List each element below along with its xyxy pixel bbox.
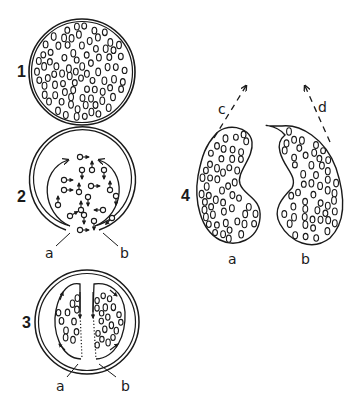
cell (69, 35, 74, 42)
cell (102, 29, 107, 36)
cell (223, 219, 228, 226)
cell (315, 207, 320, 214)
cell (230, 146, 235, 153)
motile-cell (91, 218, 96, 223)
cell (230, 205, 235, 212)
cell (103, 45, 108, 53)
cell (239, 231, 244, 238)
cell (244, 138, 249, 145)
cell (246, 204, 251, 211)
flow-arrow-bottom-left (59, 344, 65, 350)
cell (318, 216, 323, 223)
stage-1-number: 1 (17, 63, 26, 80)
cell (211, 211, 216, 218)
cell (242, 220, 247, 227)
cell (89, 60, 94, 66)
cell (95, 342, 99, 348)
cell (200, 174, 205, 181)
cell (253, 210, 258, 217)
cell (103, 326, 107, 333)
cell (221, 231, 226, 238)
cell (107, 296, 111, 302)
cell (87, 38, 92, 45)
cell (120, 79, 125, 86)
cell (90, 78, 95, 84)
cell (292, 213, 297, 220)
motile-cell (89, 167, 94, 172)
cell (317, 155, 322, 161)
cell (117, 41, 122, 48)
cell (48, 59, 53, 65)
cell (51, 33, 56, 41)
cell (215, 164, 220, 171)
cell (96, 34, 101, 41)
cell (63, 89, 68, 96)
cell (111, 335, 115, 341)
cell (64, 327, 69, 334)
cell (208, 161, 213, 167)
cell (334, 179, 339, 186)
cell (74, 329, 79, 335)
cell (118, 53, 123, 59)
cell (332, 190, 337, 197)
cell (321, 148, 326, 154)
motile-cell (61, 187, 66, 192)
motile-cell (107, 187, 112, 192)
motile-cell (113, 193, 118, 198)
cell (56, 42, 61, 49)
cell (318, 182, 323, 189)
motile-cell (77, 227, 82, 232)
cell (311, 191, 316, 198)
stage-2: 2 a b (17, 127, 136, 261)
cell (85, 86, 90, 92)
cell (75, 106, 80, 113)
cell (97, 54, 102, 61)
cell (303, 198, 308, 204)
motile-cell (55, 202, 60, 207)
cell (85, 70, 90, 77)
inner-membrane (32, 22, 133, 123)
cell (303, 233, 308, 239)
cell (235, 218, 240, 225)
motile-cell (78, 207, 83, 212)
cell (84, 52, 89, 58)
cell (293, 232, 298, 239)
cell (326, 217, 331, 224)
cell (239, 149, 244, 156)
cell (82, 23, 87, 29)
cell (56, 107, 61, 114)
cell (72, 80, 77, 86)
cell (75, 295, 80, 302)
cell (96, 111, 101, 117)
cleavage-dotted-left (80, 311, 82, 359)
label-b: b (120, 245, 129, 261)
cell (237, 195, 242, 201)
cell (75, 23, 80, 30)
motile-cell (81, 212, 86, 217)
cell (61, 81, 66, 87)
cell (289, 192, 294, 199)
stage-3: 3 a b (22, 270, 139, 394)
cell (100, 97, 105, 104)
cell (234, 134, 239, 140)
cell (41, 52, 46, 58)
motile-cell (109, 215, 114, 220)
cell (300, 137, 305, 144)
cell (112, 75, 117, 82)
motile-cell (85, 194, 90, 199)
cell (45, 75, 50, 82)
motile-cell (67, 213, 72, 218)
cell (56, 310, 61, 316)
cell (48, 49, 53, 55)
cell-cluster (199, 128, 338, 243)
cell (77, 31, 82, 38)
cell (221, 146, 226, 153)
cell (213, 196, 218, 203)
cell (117, 312, 121, 318)
cell (199, 190, 204, 198)
cell (103, 304, 107, 311)
cell (59, 98, 64, 105)
cell (221, 169, 226, 176)
cell (42, 91, 47, 98)
cell (287, 220, 292, 227)
